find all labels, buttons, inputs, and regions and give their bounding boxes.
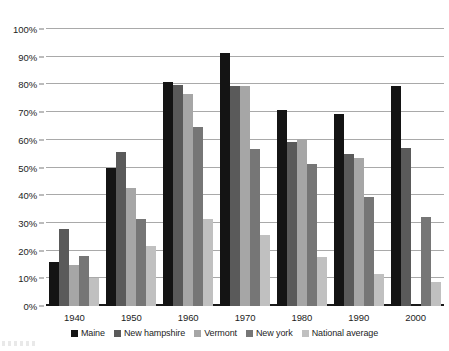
bar-fill <box>421 217 431 306</box>
bar-fill <box>260 235 270 306</box>
x-axis-tick-label: 1970 <box>217 307 274 325</box>
bar-fill <box>307 164 317 306</box>
legend-swatch-icon <box>246 330 253 337</box>
bar-fill <box>297 139 307 306</box>
legend: MaineNew hampshireVermontNew yorkNationa… <box>0 328 449 338</box>
legend-label: Maine <box>81 328 105 338</box>
legend-label: Vermont <box>204 328 237 338</box>
y-axis: 0%10%20%30%40%50%60%70%80%90%100% <box>0 29 44 306</box>
bar-fill <box>240 86 250 306</box>
bar-chart: 0%10%20%30%40%50%60%70%80%90%100% 194019… <box>0 0 449 351</box>
bar-fill <box>230 86 240 306</box>
bar-group <box>330 29 387 306</box>
bar-fill <box>374 274 384 306</box>
y-axis-tick-label: 40% <box>18 190 37 201</box>
bar-fill <box>364 197 374 306</box>
legend-swatch-icon <box>71 330 78 337</box>
bar-fill <box>59 229 69 306</box>
x-axis-tick-label: 1950 <box>103 307 160 325</box>
bar-fill <box>354 158 364 306</box>
bar-group <box>103 29 160 306</box>
plot-area <box>46 29 444 306</box>
bar-fill <box>126 188 136 306</box>
scan-artifact <box>2 341 36 346</box>
bar-fill <box>163 82 173 306</box>
legend-item[interactable]: New hampshire <box>114 328 185 338</box>
bar-fill <box>287 142 297 306</box>
bar-fill <box>391 86 401 306</box>
bar-fill <box>431 282 441 306</box>
bar-group <box>46 29 103 306</box>
bar-fill <box>136 219 146 306</box>
bar-group <box>217 29 274 306</box>
bar-fill <box>317 257 327 306</box>
bar-fill <box>79 256 89 306</box>
legend-item[interactable]: New york <box>246 328 293 338</box>
x-axis-tick-label: 2000 <box>387 307 444 325</box>
x-axis-tick-label: 1990 <box>330 307 387 325</box>
bar-fill <box>146 246 156 306</box>
bar-groups <box>46 29 444 306</box>
x-axis-tick-label: 1940 <box>46 307 103 325</box>
bar-fill <box>193 127 203 306</box>
x-axis-tick-label: 1960 <box>160 307 217 325</box>
y-axis-tick-mark <box>39 112 44 113</box>
bar-group <box>387 29 444 306</box>
bar-fill <box>89 278 99 306</box>
bar-fill <box>250 149 260 306</box>
legend-swatch-icon <box>302 330 309 337</box>
bar-fill <box>49 262 59 306</box>
y-axis-tick-mark <box>39 167 44 168</box>
bar-fill <box>69 265 79 306</box>
x-axis: 1940195019601970198019902000 <box>46 307 444 325</box>
bar-fill <box>277 110 287 306</box>
bar-fill <box>173 85 183 306</box>
bar-fill <box>220 53 230 306</box>
y-axis-tick-label: 90% <box>18 51 37 62</box>
legend-item[interactable]: Vermont <box>194 328 237 338</box>
legend-item[interactable]: National average <box>302 328 378 338</box>
y-axis-tick-label: 70% <box>18 107 37 118</box>
y-axis-tick-label: 50% <box>18 162 37 173</box>
y-axis-tick-mark <box>39 306 44 307</box>
bar-fill <box>334 114 344 306</box>
bar-group <box>160 29 217 306</box>
bar-fill <box>344 154 354 306</box>
bar-fill <box>116 152 126 306</box>
legend-item[interactable]: Maine <box>71 328 105 338</box>
bar-fill <box>401 148 411 306</box>
bar-fill <box>203 219 213 306</box>
legend-label: National average <box>312 328 378 338</box>
legend-label: New hampshire <box>124 328 185 338</box>
y-axis-tick-label: 10% <box>18 273 37 284</box>
y-axis-tick-label: 20% <box>18 245 37 256</box>
y-axis-tick-mark <box>39 139 44 140</box>
legend-swatch-icon <box>114 330 121 337</box>
y-axis-tick-mark <box>39 278 44 279</box>
y-axis-tick-mark <box>39 222 44 223</box>
bar-group <box>273 29 330 306</box>
bar-fill <box>106 168 116 307</box>
y-axis-tick-mark <box>39 250 44 251</box>
y-axis-tick-mark <box>39 56 44 57</box>
bar-fill <box>183 94 193 306</box>
y-axis-tick-mark <box>39 29 44 30</box>
legend-swatch-icon <box>194 330 201 337</box>
x-axis-tick-label: 1980 <box>273 307 330 325</box>
legend-label: New york <box>256 328 293 338</box>
y-axis-tick-label: 80% <box>18 79 37 90</box>
y-axis-tick-label: 100% <box>13 24 37 35</box>
y-axis-tick-mark <box>39 84 44 85</box>
y-axis-tick-label: 60% <box>18 134 37 145</box>
y-axis-tick-mark <box>39 195 44 196</box>
y-axis-tick-label: 0% <box>23 301 37 312</box>
y-axis-tick-label: 30% <box>18 217 37 228</box>
